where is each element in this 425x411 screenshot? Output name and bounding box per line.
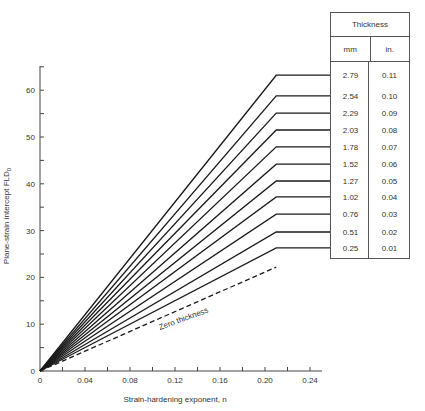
thickness-in: 0.04 (370, 192, 409, 204)
table-row: 1.270.05 (331, 176, 409, 188)
table-header-row: mm in. (331, 37, 409, 62)
table-row: 2.290.09 (331, 108, 409, 120)
table-row: 0.760.03 (331, 209, 409, 221)
thickness-mm: 2.54 (331, 91, 370, 103)
y-tick-label: 20 (26, 273, 35, 282)
table-row: 0.510.02 (331, 227, 409, 239)
y-axis-title-main: Plane-strain intercept FLD (2, 171, 11, 264)
table-body: 2.790.112.540.102.290.092.030.081.780.07… (331, 61, 409, 258)
y-tick-label: 30 (26, 227, 35, 236)
table-row: 2.540.10 (331, 91, 409, 103)
thickness-mm: 1.78 (331, 142, 370, 154)
y-tick-label: 40 (26, 180, 35, 189)
table-row: 2.030.08 (331, 125, 409, 137)
x-tick-label: 0.08 (122, 376, 138, 385)
thickness-legend-table: Thickness mm in. 2.790.112.540.102.290.0… (330, 12, 410, 259)
table-row: 1.520.06 (331, 159, 409, 171)
table-row: 0.250.01 (331, 243, 409, 255)
thickness-in: 0.03 (370, 209, 409, 221)
thickness-line (40, 248, 330, 371)
thickness-line (40, 214, 330, 371)
thickness-mm: 2.03 (331, 125, 370, 137)
y-axis-title-subscript: 0 (6, 167, 12, 171)
table-row: 1.780.07 (331, 142, 409, 154)
thickness-in: 0.09 (370, 108, 409, 120)
thickness-in: 0.06 (370, 159, 409, 171)
y-tick-label: 0 (31, 367, 36, 376)
table-title: Thickness (331, 13, 409, 37)
x-axis-title: Strain-hardening exponent, n (123, 395, 226, 404)
thickness-in: 0.07 (370, 142, 409, 154)
y-tick-label: 10 (26, 320, 35, 329)
x-tick-label: 0.24 (302, 376, 318, 385)
y-tick-label: 60 (26, 86, 35, 95)
thickness-mm: 1.52 (331, 159, 370, 171)
x-tick-label: 0.20 (257, 376, 273, 385)
thickness-line (40, 130, 330, 371)
zero-thickness-label: Zero thickness (158, 306, 210, 332)
thickness-in: 0.08 (370, 125, 409, 137)
series-lines (40, 75, 330, 371)
x-tick-label: 0.12 (167, 376, 183, 385)
table-row: 2.790.11 (331, 70, 409, 82)
thickness-mm: 2.29 (331, 108, 370, 120)
thickness-mm: 0.76 (331, 209, 370, 221)
thickness-mm: 1.27 (331, 176, 370, 188)
column-header-in: in. (371, 37, 410, 61)
thickness-mm: 2.79 (331, 70, 370, 82)
thickness-mm: 1.02 (331, 192, 370, 204)
thickness-line (40, 164, 330, 371)
zero-thickness-line (40, 267, 276, 371)
thickness-in: 0.01 (370, 243, 409, 255)
y-tick-label: 50 (26, 133, 35, 142)
x-tick-label: 0.16 (212, 376, 228, 385)
column-header-mm: mm (331, 37, 371, 61)
thickness-in: 0.02 (370, 227, 409, 239)
thickness-in: 0.10 (370, 91, 409, 103)
thickness-line (40, 232, 330, 371)
y-axis-title: Plane-strain intercept FLD0 (2, 167, 12, 264)
x-tick-label: 0 (38, 376, 43, 385)
x-tick-label: 0.04 (77, 376, 93, 385)
thickness-mm: 0.25 (331, 243, 370, 255)
table-row: 1.020.04 (331, 192, 409, 204)
thickness-in: 0.11 (370, 70, 409, 82)
thickness-in: 0.05 (370, 176, 409, 188)
thickness-mm: 0.51 (331, 227, 370, 239)
